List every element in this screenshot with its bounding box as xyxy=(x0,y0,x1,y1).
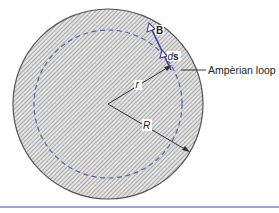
amperian-loop-diagram: r R B ds Ampèrian loop xyxy=(0,0,279,213)
R-label: R xyxy=(143,120,150,131)
B-label: B xyxy=(156,25,163,36)
amperian-loop-label: Ampèrian loop xyxy=(208,64,276,76)
ds-label: ds xyxy=(168,51,180,62)
ds-label-s: s xyxy=(173,51,179,62)
